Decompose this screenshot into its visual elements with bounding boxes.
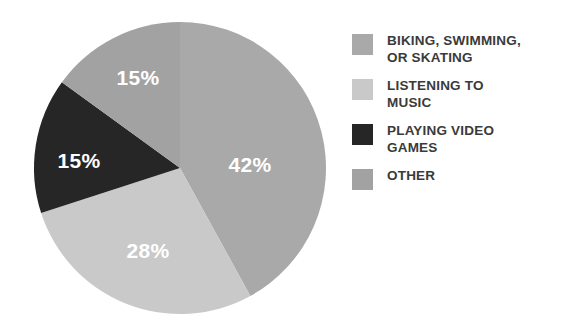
legend-item-label: LISTENING TO MUSIC	[387, 78, 484, 111]
legend-color-swatch	[352, 124, 373, 145]
legend-color-swatch	[352, 169, 373, 190]
legend-item[interactable]: PLAYING VIDEO GAMES	[352, 123, 567, 156]
pie-slice-value-label: 28%	[127, 239, 170, 262]
legend-item-label: PLAYING VIDEO GAMES	[387, 123, 494, 156]
legend-item[interactable]: LISTENING TO MUSIC	[352, 78, 567, 111]
pie-chart-area: 42%28%15%15%	[34, 22, 326, 314]
pie-slice-value-label: 15%	[117, 66, 160, 89]
chart-legend: BIKING, SWIMMING, OR SKATINGLISTENING TO…	[352, 33, 567, 190]
pie-chart-svg: 42%28%15%15%	[34, 22, 326, 314]
legend-item-label: BIKING, SWIMMING, OR SKATING	[387, 33, 521, 66]
pie-chart-figure: 42%28%15%15% BIKING, SWIMMING, OR SKATIN…	[0, 0, 580, 329]
pie-slice-value-label: 15%	[58, 149, 101, 172]
legend-item[interactable]: BIKING, SWIMMING, OR SKATING	[352, 33, 567, 66]
legend-color-swatch	[352, 34, 373, 55]
pie-slice-value-label: 42%	[229, 153, 272, 176]
legend-color-swatch	[352, 79, 373, 100]
legend-item[interactable]: OTHER	[352, 168, 567, 190]
legend-item-label: OTHER	[387, 168, 435, 185]
